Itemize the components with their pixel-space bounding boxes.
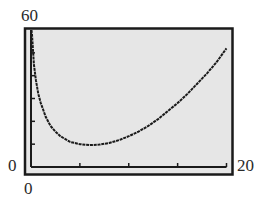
plot-frame — [25, 29, 233, 175]
chart-plot — [0, 0, 258, 201]
